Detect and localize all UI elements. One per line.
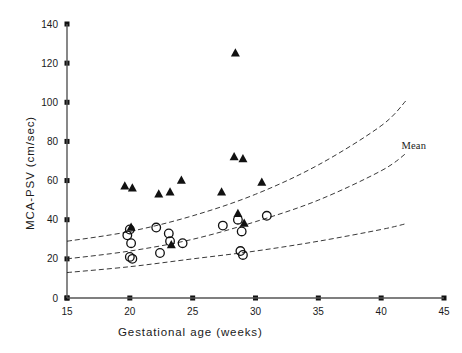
y-tick-label: 80 xyxy=(47,136,59,147)
chart-annotations: Mean xyxy=(401,140,426,151)
data-point-triangle xyxy=(257,177,266,185)
mean-curve xyxy=(67,153,406,259)
y-axis-title: MCA-PSV (cm/sec) xyxy=(24,116,36,230)
data-point-triangle xyxy=(166,187,175,195)
x-tick-label: 40 xyxy=(376,306,388,317)
y-tick-label: 0 xyxy=(52,293,58,304)
data-point-circle xyxy=(127,239,136,248)
data-point-circle xyxy=(237,227,246,236)
data-point-triangle xyxy=(120,181,129,189)
x-axis-title: Gestational age (weeks) xyxy=(118,326,263,338)
data-point-circle xyxy=(128,255,137,264)
x-axis-ticks: 15202530354045 xyxy=(61,296,450,318)
x-tick-label: 45 xyxy=(438,306,450,317)
y-tick-label: 140 xyxy=(41,19,58,30)
data-point-circle xyxy=(219,221,228,230)
upper-curve xyxy=(67,100,406,241)
data-point-circle xyxy=(263,212,272,221)
data-point-triangle xyxy=(177,175,186,183)
data-point-triangle xyxy=(128,183,137,191)
y-axis-ticks: 020406080100120140 xyxy=(41,19,69,304)
data-point-triangle xyxy=(217,187,226,195)
x-tick-label: 30 xyxy=(250,306,262,317)
chart-figure: 020406080100120140 15202530354045 Mean G… xyxy=(0,0,462,353)
data-point-circle xyxy=(178,239,187,248)
y-tick-label: 20 xyxy=(47,253,59,264)
mean-curve-label: Mean xyxy=(401,140,426,151)
x-tick-label: 20 xyxy=(124,306,136,317)
data-point-triangle xyxy=(154,189,163,197)
reference-curves xyxy=(67,100,406,272)
x-tick-label: 15 xyxy=(61,306,73,317)
y-tick-label: 120 xyxy=(41,58,58,69)
data-point-circle xyxy=(164,229,173,238)
data-point-triangle xyxy=(231,48,240,56)
y-tick-label: 100 xyxy=(41,97,58,108)
data-point-circle xyxy=(152,223,161,232)
y-tick-label: 40 xyxy=(47,214,59,225)
scatter-plot: 020406080100120140 15202530354045 Mean G… xyxy=(0,0,462,353)
data-point-triangle xyxy=(238,154,247,162)
x-tick-label: 25 xyxy=(187,306,199,317)
data-point-triangle xyxy=(230,152,239,160)
data-point-circle xyxy=(126,253,135,262)
data-points xyxy=(120,48,271,263)
y-tick-label: 60 xyxy=(47,175,59,186)
x-tick-label: 35 xyxy=(313,306,325,317)
data-point-circle xyxy=(156,249,165,258)
